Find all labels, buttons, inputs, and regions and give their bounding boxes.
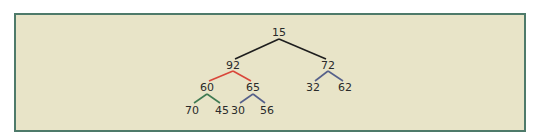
- node-30: 30: [231, 104, 245, 117]
- node-70: 70: [185, 104, 199, 117]
- edge-72-32: [315, 71, 328, 81]
- binary-tree-diagram: 15 92 72 60 65 32 62 70 45 30 56: [0, 0, 537, 138]
- edge-60-70: [194, 94, 207, 103]
- node-72: 72: [321, 59, 335, 72]
- node-45: 45: [215, 104, 229, 117]
- edge-60-45: [207, 94, 220, 103]
- node-32: 32: [306, 81, 320, 94]
- node-56: 56: [260, 104, 274, 117]
- node-65: 65: [246, 81, 260, 94]
- edge-15-72: [279, 39, 326, 59]
- node-15: 15: [272, 26, 286, 39]
- edge-65-56: [253, 94, 265, 103]
- edge-65-30: [240, 94, 253, 103]
- edge-15-92: [235, 39, 279, 59]
- node-92: 92: [226, 59, 240, 72]
- node-62: 62: [338, 81, 352, 94]
- edge-92-60: [209, 71, 233, 81]
- edge-92-65: [233, 71, 251, 81]
- edge-72-62: [328, 71, 343, 81]
- node-60: 60: [200, 81, 214, 94]
